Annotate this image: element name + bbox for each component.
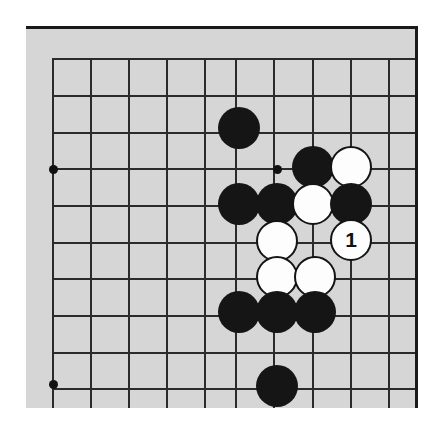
stone-black-3[interactable] (218, 183, 260, 225)
stone-black-1[interactable] (292, 146, 334, 188)
stone-white-5[interactable] (292, 183, 334, 225)
stone-black-0[interactable] (218, 107, 260, 149)
stone-white-move-1[interactable]: 1 (330, 219, 372, 261)
stone-black-14[interactable] (256, 365, 298, 407)
stone-black-13[interactable] (294, 291, 336, 333)
board-edge-right (415, 26, 418, 408)
stone-black-12[interactable] (256, 291, 298, 333)
stone-black-11[interactable] (218, 291, 260, 333)
stone-white-2[interactable] (330, 146, 372, 188)
move-number-label: 1 (332, 221, 370, 259)
board-edge-top (26, 26, 418, 29)
go-diagram-page: 1 (0, 0, 443, 432)
